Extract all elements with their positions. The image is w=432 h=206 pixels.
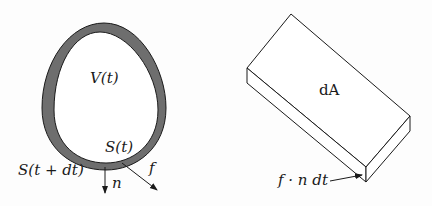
volume-label: V(t)	[90, 71, 119, 86]
thickness-arrow-icon	[330, 175, 362, 181]
inner-surface-label: S(t)	[105, 140, 133, 155]
flux-label: f	[149, 161, 155, 176]
thickness-label: f · n dt	[278, 173, 328, 188]
diagram-canvas: V(t) S(t) S(t + dt) n f dA f · n dt	[0, 0, 432, 206]
outer-surface-label: S(t + dt)	[18, 163, 84, 178]
area-label: dA	[319, 83, 339, 98]
normal-label: n	[112, 176, 122, 191]
